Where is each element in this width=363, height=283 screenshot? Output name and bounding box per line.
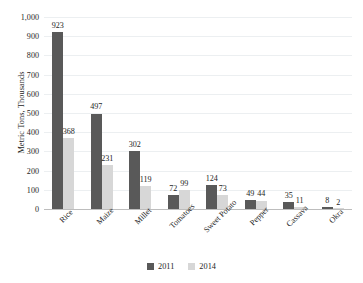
bar[interactable] (206, 185, 217, 209)
x-label-cell: Pepper (237, 211, 276, 259)
legend-swatch-icon (147, 263, 154, 270)
bar[interactable] (91, 114, 102, 209)
bar-group: 3511 (275, 17, 314, 209)
bar-value-label: 44 (257, 190, 265, 198)
bar-slot: 368 (63, 17, 74, 209)
x-axis-tick-labels: RiceMaizeMilletTomatoesSweet PotatoPeppe… (44, 211, 352, 259)
bar-group: 82 (314, 17, 353, 209)
bar-value-label: 2 (336, 199, 340, 207)
x-label-cell: Okra (314, 211, 353, 259)
chart-legend: 20112014 (0, 262, 363, 271)
bar-slot: 2 (333, 17, 344, 209)
legend-item[interactable]: 2011 (147, 262, 174, 271)
legend-label: 2011 (158, 262, 174, 271)
x-label-cell: Maize (83, 211, 122, 259)
bar-slot: 8 (322, 17, 333, 209)
legend-swatch-icon (188, 263, 195, 270)
bar-slot: 124 (206, 17, 217, 209)
bar-slot: 302 (129, 17, 140, 209)
legend-label: 2014 (199, 262, 216, 271)
legend-item[interactable]: 2014 (188, 262, 216, 271)
bar-slot: 73 (217, 17, 228, 209)
bar[interactable] (52, 32, 63, 209)
y-tick-label: 600 (27, 89, 39, 98)
bar[interactable] (283, 202, 294, 209)
plot-area: 9233684972313021197299124734944351182 (44, 17, 352, 209)
bar-group: 302119 (121, 17, 160, 209)
x-label-cell: Cassava (275, 211, 314, 259)
bar-value-label: 72 (169, 185, 177, 193)
bar-slot: 99 (179, 17, 190, 209)
bar-value-label: 124 (206, 175, 218, 183)
bar[interactable] (168, 195, 179, 209)
bar-value-label: 35 (285, 192, 293, 200)
bar[interactable] (102, 165, 113, 209)
y-tick-label: 1,000 (21, 13, 39, 22)
y-tick-label: 300 (27, 147, 39, 156)
bar-group: 497231 (83, 17, 122, 209)
x-label-cell: Tomatoes (160, 211, 199, 259)
bar-group: 4944 (237, 17, 276, 209)
y-tick-label: 400 (27, 128, 39, 137)
x-label-cell: Millet (121, 211, 160, 259)
bar-value-label: 497 (90, 103, 102, 111)
y-tick-label: 500 (27, 109, 39, 118)
y-tick-label: 0 (35, 205, 39, 214)
y-tick-label: 700 (27, 70, 39, 79)
x-label-cell: Rice (44, 211, 83, 259)
bar-groups: 9233684972313021197299124734944351182 (44, 17, 352, 209)
y-tick-label: 800 (27, 51, 39, 60)
bar-slot: 923 (52, 17, 63, 209)
x-label-cell: Sweet Potato (198, 211, 237, 259)
bar[interactable] (322, 207, 333, 209)
bar-slot: 11 (294, 17, 305, 209)
y-axis-tick-labels: 1,0009008007006005004003002001000 (0, 17, 42, 209)
x-tick-label: Rice (58, 208, 75, 225)
bar[interactable] (63, 138, 74, 209)
y-tick-label: 900 (27, 32, 39, 41)
bar-group: 923368 (44, 17, 83, 209)
bar-slot: 49 (245, 17, 256, 209)
bar-slot: 72 (168, 17, 179, 209)
bar[interactable] (129, 151, 140, 209)
y-tick-label: 100 (27, 185, 39, 194)
bar-slot: 497 (91, 17, 102, 209)
bar-value-label: 8 (325, 197, 329, 205)
y-tick-label: 200 (27, 166, 39, 175)
bar-value-label: 49 (246, 190, 254, 198)
bar-slot: 44 (256, 17, 267, 209)
bar-value-label: 302 (129, 141, 141, 149)
bar-group: 7299 (160, 17, 199, 209)
bar[interactable] (245, 200, 256, 209)
bar-slot: 35 (283, 17, 294, 209)
bar-value-label: 368 (63, 128, 75, 136)
bar-slot: 119 (140, 17, 151, 209)
bar-group: 12473 (198, 17, 237, 209)
bar-slot: 231 (102, 17, 113, 209)
bar-value-label: 231 (101, 155, 113, 163)
bar-value-label: 99 (180, 180, 188, 188)
bar-value-label: 119 (140, 176, 152, 184)
bar-value-label: 73 (219, 185, 227, 193)
bar-chart: Metric Tons, Thousands 1,000900800700600… (0, 0, 363, 283)
bar-value-label: 923 (52, 22, 64, 30)
